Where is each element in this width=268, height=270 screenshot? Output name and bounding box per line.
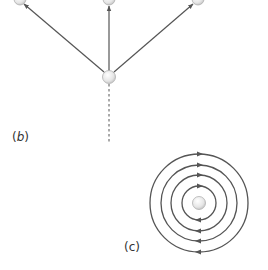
node-top-right — [192, 0, 204, 5]
arrow-right-icon — [197, 152, 203, 157]
arrow-left-icon — [195, 229, 201, 234]
arrow-left-icon — [195, 239, 201, 244]
diagram-canvas — [0, 0, 268, 270]
edge-center-top-left — [24, 4, 104, 72]
arrow-left-icon — [195, 250, 201, 255]
node-center — [103, 71, 116, 84]
panel-c-label: (c) — [124, 240, 140, 254]
nucleus — [193, 197, 206, 210]
arrow-right-icon — [197, 184, 203, 189]
panel-b-graph — [14, 0, 204, 142]
arrow-right-icon — [197, 163, 203, 168]
paren-close: ) — [135, 240, 140, 254]
node-top-center — [103, 0, 115, 5]
arrow-left-icon — [195, 218, 201, 223]
edge-center-top-right — [114, 4, 193, 72]
paren-close: ) — [24, 130, 29, 144]
panel-b-label: (b) — [12, 130, 29, 144]
arrow-right-icon — [197, 173, 203, 178]
